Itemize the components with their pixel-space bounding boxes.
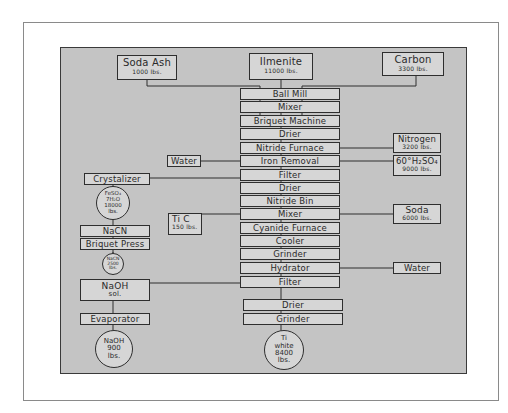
step-grinder-1: Grinder [240,248,340,260]
step-drier-2: Drier [240,182,340,194]
input-ilmenite-qty: 11000 lbs. [250,68,312,74]
product-nacn-line3: lbs. [109,266,117,271]
product-nacn: NaCN 2500 lbs. [102,253,124,275]
step-drier-3: Drier [243,299,343,311]
input-nitrogen: Nitrogen 3200 lbs. [393,133,441,153]
input-carbon: Carbon 3300 lbs. [382,52,444,76]
step-mixer-1: Mixer [240,101,340,113]
step-naoh-solution-line2: sol. [81,291,149,298]
input-water-right: Water [393,262,441,274]
input-soda-ash-qty: 1000 lbs. [118,69,176,75]
input-ilmenite: Ilmenite 11000 lbs. [249,53,313,80]
product-ti-white-line4: lbs. [278,357,290,364]
step-drier-1: Drier [240,128,340,140]
input-ilmenite-label: Ilmenite [250,57,312,68]
step-mixer-2: Mixer [240,208,340,220]
input-carbon-label: Carbon [383,55,443,66]
input-soda-ash-label: Soda Ash [118,58,176,69]
input-soda-ash: Soda Ash 1000 lbs. [117,55,177,80]
step-crystalizer: Crystalizer [84,173,150,185]
input-soda: Soda 6000 lbs. [393,204,441,224]
product-naoh-line3: lbs. [108,353,120,360]
input-soda-qty: 6000 lbs. [394,215,440,221]
input-sulfuric-acid-qty: 9000 lbs. [394,166,440,172]
product-ti-white: Ti white 8400 lbs. [264,330,304,370]
step-grinder-2: Grinder [243,313,343,325]
step-nitride-furnace: Nitride Furnace [240,142,340,154]
input-ti-c: Ti C 150 lbs. [168,213,202,235]
step-ball-mill: Ball Mill [240,88,340,100]
step-nacn: NaCN [80,225,150,237]
step-nitride-bin: Nitride Bin [240,195,340,207]
step-naoh-solution: NaOH sol. [80,279,150,301]
input-sulfuric-acid: 60°H₂SO₄ 9000 lbs. [393,155,441,176]
step-briquet-press: Briquet Press [80,238,150,250]
step-filter-1: Filter [240,169,340,181]
step-hydrator: Hydrator [240,262,340,274]
step-evaporator: Evaporator [80,313,150,325]
product-naoh: NaOH 900 lbs. [95,330,133,368]
step-cyanide-furnace: Cyanide Furnace [240,222,340,234]
product-ferrous-sulfate-line4: lbs. [108,209,118,215]
step-filter-2: Filter [240,276,340,288]
step-iron-removal: Iron Removal [240,155,340,167]
input-ti-c-qty: 150 lbs. [172,224,201,230]
product-ferrous-sulfate: FeSO₄ 7H₂O 18000 lbs. [96,186,130,220]
step-briquet-machine: Briquet Machine [240,115,340,127]
input-nitrogen-qty: 3200 lbs. [394,144,440,150]
input-water-left: Water [167,155,201,167]
input-carbon-qty: 3300 lbs. [383,66,443,72]
step-cooler: Cooler [240,235,340,247]
